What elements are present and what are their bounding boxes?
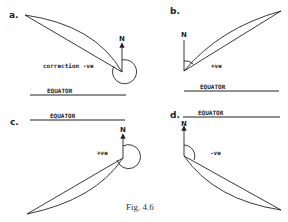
equator-label: EQUATOR — [198, 109, 224, 116]
correction-angle-arc — [184, 61, 193, 64]
panel-label: c. — [10, 117, 19, 127]
panel-label: d. — [170, 110, 180, 120]
panel-label: b. — [170, 6, 180, 16]
figure-caption: Fig. 4.6 — [126, 202, 154, 212]
equator-label: EQUATOR — [200, 83, 226, 90]
sign-label: +ve — [97, 149, 108, 156]
equator-label: EQUATOR — [47, 87, 73, 94]
correction-angle-arc — [117, 145, 141, 169]
panel-label: a. — [9, 10, 19, 20]
north-label: N — [119, 35, 125, 43]
rhumb-line — [27, 158, 123, 214]
sign-label: correction -ve — [43, 62, 94, 69]
panel-b: b. N +ve EQUATOR — [170, 6, 281, 91]
panel-a: a. N correction -ve EQUATOR — [9, 10, 137, 95]
panel-c: c. EQUATOR N +ve — [10, 112, 141, 214]
panel-d: d. EQUATOR N -ve — [170, 109, 281, 210]
sign-label: +ve — [211, 62, 222, 69]
figure-4-6: a. N correction -ve EQUATOR b. N +ve EQU… — [0, 0, 288, 222]
rhumb-line — [184, 156, 281, 210]
north-label: N — [120, 126, 126, 134]
north-label: N — [181, 31, 187, 39]
north-label: N — [181, 120, 187, 128]
sign-label: -ve — [210, 149, 221, 156]
equator-label: EQUATOR — [50, 112, 76, 119]
rhumb-line — [184, 11, 281, 71]
